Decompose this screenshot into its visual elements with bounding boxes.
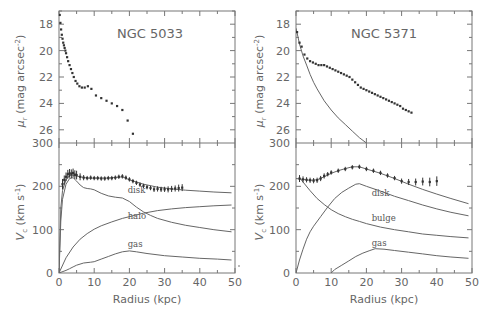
rc-data-point — [372, 170, 374, 172]
rc-data-point — [323, 175, 325, 177]
y-tick-label: 20 — [39, 45, 53, 58]
y-tick-label: 20 — [276, 45, 290, 58]
rc-data-point — [107, 177, 109, 179]
rc-data-point — [63, 179, 65, 181]
sb-data-point — [391, 101, 393, 103]
sb-data-point — [326, 65, 328, 67]
rc-model-curve-gas — [59, 251, 232, 273]
sb-data-point — [379, 96, 381, 98]
rc-data-point — [178, 187, 180, 189]
x-axis-label: Radius (kpc) — [350, 293, 418, 306]
rc-data-point — [316, 179, 318, 181]
x-tick-label: 10 — [324, 276, 338, 289]
rc-data-point — [100, 177, 102, 179]
rc-data-point — [436, 180, 438, 182]
rc-data-point — [305, 179, 307, 181]
rc-data-point — [146, 186, 148, 188]
sb-data-point — [348, 76, 350, 78]
y-axis-label-velocity-close: ) — [253, 184, 266, 188]
y-axis-label-surface-brightness-superscript: -2 — [14, 39, 22, 46]
x-tick-label: 20 — [359, 276, 373, 289]
y-axis-label-surface-brightness-close: ) — [253, 35, 266, 39]
rc-data-point — [393, 177, 395, 179]
x-tick-label: 50 — [228, 276, 242, 289]
x-tick-label: 20 — [122, 276, 136, 289]
sb-data-point — [60, 28, 62, 30]
y-axis-label-surface-brightness-units: (mag arcsec — [253, 46, 266, 117]
sb-data-point — [105, 100, 107, 102]
sb-data-point — [354, 81, 356, 83]
y-axis-label-velocity-units: (km s — [14, 195, 27, 229]
sb-data-point — [65, 52, 67, 54]
y-axis-label-surface-brightness: μr (mag arcsec-2) — [14, 35, 29, 129]
y-tick-label: 24 — [39, 97, 53, 110]
rc-data-point — [327, 173, 329, 175]
curve-label-bulge: bulge — [372, 213, 396, 223]
sb-data-point — [405, 109, 407, 111]
sb-data-point — [121, 109, 123, 111]
sb-data-point — [368, 90, 370, 92]
sb-data-point — [388, 100, 390, 102]
panel-ngc-5033: 01020304050Radius (kpc)18202224260100200… — [14, 11, 242, 306]
x-tick-label: 30 — [395, 276, 409, 289]
rc-data-point — [408, 181, 410, 183]
x-tick-label: 0 — [56, 276, 63, 289]
rc-data-point — [379, 172, 381, 174]
y-axis-label-velocity-superscript: -1 — [253, 188, 261, 195]
y-tick-label: 300 — [32, 137, 53, 150]
rc-data-point — [171, 188, 173, 190]
rc-data-point — [313, 180, 315, 182]
x-tick-label: 30 — [158, 276, 172, 289]
y-axis-label-surface-brightness-units: (mag arcsec — [14, 46, 27, 117]
y-axis-label-surface-brightness-superscript: -2 — [253, 39, 261, 46]
sb-data-point — [343, 73, 345, 75]
sb-data-point — [357, 84, 359, 86]
y-axis-label-surface-brightness: μr (mag arcsec-2) — [253, 35, 268, 129]
sb-data-point — [76, 83, 78, 85]
rc-data-point — [156, 188, 158, 190]
y-tick-label: 200 — [269, 180, 290, 193]
rc-data-point — [429, 181, 431, 183]
y-tick-label: 200 — [32, 180, 53, 193]
rc-data-point — [302, 178, 304, 180]
sb-data-point — [71, 72, 73, 74]
surface-brightness-plot — [296, 28, 413, 143]
sb-data-point — [329, 67, 331, 69]
rc-data-point — [365, 168, 367, 170]
rc-data-point — [422, 180, 424, 182]
y-axis-label-surface-brightness-symbol: μ — [253, 120, 266, 128]
rc-data-point — [401, 180, 403, 182]
rc-data-point — [309, 179, 311, 181]
sb-data-point — [371, 92, 373, 94]
sb-data-point — [332, 68, 334, 70]
sb-data-point — [385, 98, 387, 100]
sb-data-point — [320, 64, 322, 66]
y-tick-label: 26 — [276, 124, 290, 137]
curve-label-gas: gas — [128, 239, 143, 249]
sb-data-point — [62, 42, 64, 44]
x-tick-label: 50 — [465, 276, 479, 289]
sb-data-point — [61, 34, 63, 36]
rc-data-point — [125, 177, 127, 179]
sb-data-point — [408, 110, 410, 112]
rc-data-point — [118, 176, 120, 178]
rc-data-point — [344, 168, 346, 170]
y-axis-label-surface-brightness-symbol: μ — [14, 120, 27, 128]
rc-data-point — [121, 175, 123, 177]
rc-model-curve-total — [296, 167, 469, 204]
sb-data-point — [362, 88, 364, 90]
sb-data-point — [67, 60, 69, 62]
y-axis-label-velocity-close: ) — [14, 184, 27, 188]
y-tick-label: 0 — [46, 267, 53, 280]
sb-data-point — [346, 75, 348, 77]
curve-label-gas: gas — [372, 238, 387, 248]
rc-data-point — [337, 170, 339, 172]
sb-data-point — [410, 112, 412, 114]
y-tick-label: 300 — [269, 137, 290, 150]
sb-data-point — [127, 119, 129, 121]
y-tick-label: 26 — [39, 124, 53, 137]
curve-label-halo: halo — [128, 211, 146, 221]
rc-data-point — [415, 181, 417, 183]
sb-data-point — [399, 105, 401, 107]
sb-data-point — [306, 57, 308, 59]
